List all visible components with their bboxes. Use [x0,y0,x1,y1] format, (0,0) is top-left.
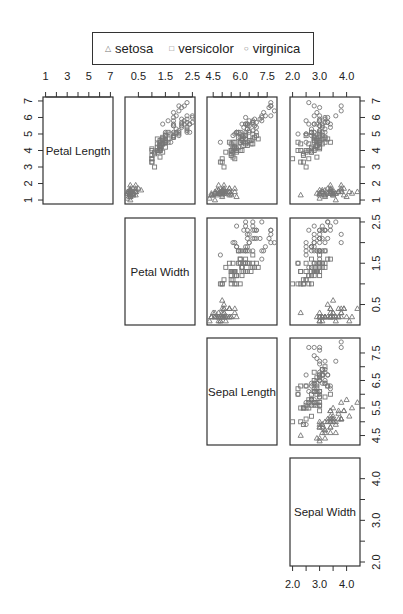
scatter-panel-petal-length-vs-petal-width [125,97,195,204]
right-axis-tick-label: 3.0 [370,513,382,528]
right-axis-tick-label: 2.5 [370,214,382,229]
variable-label: Petal Length [46,145,111,157]
top-axis-tick-label: 2.5 [185,70,200,82]
right-axis-tick-label: 1.5 [370,256,382,271]
diagonal-panel-petal-length: Petal Length [43,97,113,204]
bottom-axis-tick-label: 2.0 [285,578,300,590]
right-axis-tick-label: 7.5 [370,345,382,360]
right-axis-tick-label: 4 [370,147,382,153]
right-axis-tick-label: 4.0 [370,471,382,486]
left-axis-tick-label: 5 [22,131,34,137]
bottom-axis-tick-label: 3.0 [312,578,327,590]
right-axis-tick-label: 6.5 [370,373,382,388]
left-axis-tick-label: 2 [22,180,34,186]
variable-label: Petal Width [131,266,190,278]
top-axis-tick-label: 4.0 [339,70,354,82]
scatter-panel-petal-width-vs-sepal-length [207,218,277,325]
left-axis-tick-label: 1 [22,197,34,203]
left-axis-tick-label: 4 [22,147,34,153]
left-axis-tick-label: 6 [22,114,34,120]
right-axis-tick-label: 2 [370,180,382,186]
variable-label: Sepal Width [294,506,356,518]
right-axis-tick-label: 1 [370,197,382,203]
left-axis-tick-label: 7 [22,98,34,104]
right-axis-tick-label: 5.5 [370,400,382,415]
scatterplot-matrix: Petal LengthPetal WidthSepal LengthSepal… [0,0,403,614]
diagonal-panel-petal-width: Petal Width [125,218,195,325]
top-axis-tick-label: 4.5 [206,70,221,82]
left-axis-tick-label: 3 [22,164,34,170]
right-axis-tick-label: 6 [370,114,382,120]
bottom-axis-tick-label: 4.0 [339,578,354,590]
right-axis-tick-label: 5 [370,131,382,137]
right-axis-tick-label: 7 [370,98,382,104]
diagonal-panel-sepal-length: Sepal Length [207,338,277,445]
scatter-panel-sepal-length-vs-sepal-width [290,338,360,445]
top-axis-tick-label: 6.0 [233,70,248,82]
top-axis-tick-label: 3.0 [312,70,327,82]
top-axis-tick-label: 2.0 [285,70,300,82]
top-axis-tick-label: 1 [43,70,49,82]
top-axis-tick-label: 5 [86,70,92,82]
right-axis-tick-label: 3 [370,164,382,170]
top-axis-tick-label: 7 [107,70,113,82]
scatter-panel-petal-width-vs-sepal-width [290,218,360,325]
variable-label: Sepal Length [208,386,276,398]
right-axis-tick-label: 0.5 [370,297,382,312]
top-axis-tick-label: 1.5 [158,70,173,82]
diagonal-panel-sepal-width: Sepal Width [290,458,360,566]
right-axis-tick-label: 2.0 [370,554,382,569]
right-axis-tick-label: 4.5 [370,428,382,443]
top-axis-tick-label: 7.5 [260,70,275,82]
scatter-panel-petal-length-vs-sepal-width [290,97,360,204]
scatter-panel-petal-length-vs-sepal-length [207,97,277,204]
top-axis-tick-label: 0.5 [131,70,146,82]
top-axis-tick-label: 3 [64,70,70,82]
